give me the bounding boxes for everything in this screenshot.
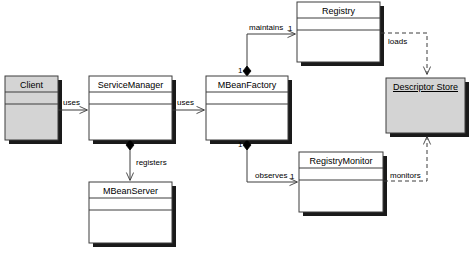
multiplicity-maintains-target: 1 xyxy=(288,25,292,33)
multiplicity-observes-source: 1 xyxy=(238,141,242,149)
class-name-service-manager: ServiceManager xyxy=(89,81,172,90)
edge-label-loads: loads xyxy=(388,38,407,46)
class-name-registry: Registry xyxy=(297,7,380,16)
edge-label-monitors: monitors xyxy=(390,172,421,180)
class-name-registry-monitor: RegistryMonitor xyxy=(299,157,383,166)
edge-label-observes: observes xyxy=(255,172,287,180)
class-name-mbean-factory: MBeanFactory xyxy=(206,81,288,90)
object-name-descriptor-store: Descriptor Store xyxy=(386,83,465,92)
edge-label-maintains: maintains xyxy=(249,24,283,32)
class-name-mbean-server: MBeanServer xyxy=(89,187,172,196)
class-name-client: Client xyxy=(5,81,58,90)
edge-label-registers: registers xyxy=(136,159,167,167)
uml-class-diagram-canvas: Client ServiceManager MBeanFactory Regis… xyxy=(0,0,474,253)
edge-label-uses-client: uses xyxy=(63,99,80,107)
edge-label-uses-servicemanager: uses xyxy=(177,99,194,107)
multiplicity-observes-target: 1 xyxy=(290,173,294,181)
edge-mbeanfactory-maintains-registry xyxy=(247,34,295,71)
diamond-mbeanfactory-registry xyxy=(243,66,251,76)
multiplicity-maintains-source: 1 xyxy=(238,67,242,75)
